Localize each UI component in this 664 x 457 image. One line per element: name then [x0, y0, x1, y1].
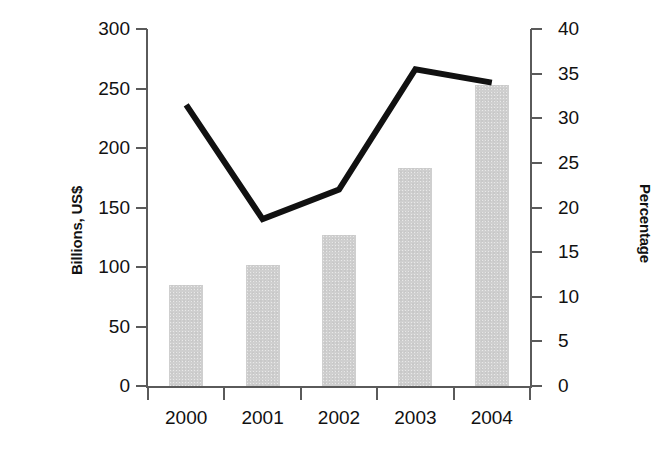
y-axis-right-tick [531, 296, 542, 298]
y-axis-right-tick-label: 30 [558, 108, 579, 127]
y-axis-left-tick-labels: 300250200150100500 [26, 29, 130, 386]
y-axis-right-tick-labels: 4035302520151050 [558, 29, 618, 386]
y-axis-right-title: Percentage [637, 139, 654, 309]
y-axis-left-tick-label: 50 [26, 317, 130, 336]
x-axis-tick [223, 386, 225, 400]
y-axis-right-tick-label: 5 [558, 331, 569, 350]
y-axis-left-tick [136, 266, 147, 268]
y-axis-left-tick-label: 200 [26, 138, 130, 157]
x-axis-tick [300, 386, 302, 400]
y-axis-right-tick [531, 207, 542, 209]
chart-figure: Billions, US$ Percentage 300250200150100… [0, 0, 664, 457]
line-series [148, 29, 530, 386]
line-series-path [186, 69, 492, 219]
y-axis-right-tick-label: 10 [558, 287, 579, 306]
x-axis-tick [529, 386, 531, 400]
y-axis-right-tick [531, 340, 542, 342]
y-axis-right-tick [531, 385, 542, 387]
y-axis-left-tick [136, 88, 147, 90]
y-axis-right-tick [531, 28, 542, 30]
y-axis-left-tick [136, 385, 147, 387]
y-axis-left-tick [136, 147, 147, 149]
x-axis-tick-label: 2003 [384, 407, 446, 429]
y-axis-right-tick [531, 162, 542, 164]
y-axis-left-tick [136, 326, 147, 328]
x-axis-tick-label: 2001 [232, 407, 294, 429]
y-axis-left-tick-label: 150 [26, 198, 130, 217]
y-axis-right-tick-label: 40 [558, 19, 579, 38]
y-axis-left-tick-label: 100 [26, 257, 130, 276]
y-axis-right-tick [531, 73, 542, 75]
y-axis-left-tick [136, 207, 147, 209]
x-axis-tick [453, 386, 455, 400]
plot-area: 20002001200220032004 [148, 29, 530, 386]
x-axis-line [146, 386, 532, 388]
y-axis-right-tick-label: 15 [558, 242, 579, 261]
y-axis-left-tick-label: 250 [26, 79, 130, 98]
x-axis-tick-label: 2000 [155, 407, 217, 429]
y-axis-right-tick-label: 20 [558, 198, 579, 217]
y-axis-right-tick [531, 251, 542, 253]
x-axis-tick-label: 2004 [461, 407, 523, 429]
y-axis-right-tick-label: 35 [558, 64, 579, 83]
x-axis-tick [376, 386, 378, 400]
x-axis-tick [147, 386, 149, 400]
x-axis-tick-label: 2002 [308, 407, 370, 429]
y-axis-left-tick-label: 0 [26, 376, 130, 395]
y-axis-right-tick-label: 0 [558, 376, 569, 395]
y-axis-left-tick-label: 300 [26, 19, 130, 38]
y-axis-right-tick [531, 117, 542, 119]
y-axis-right-tick-label: 25 [558, 153, 579, 172]
y-axis-left-tick [136, 28, 147, 30]
